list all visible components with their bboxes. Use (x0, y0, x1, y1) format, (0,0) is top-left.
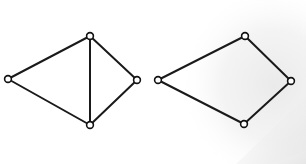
graph-figure (0, 0, 306, 164)
graph-node (87, 122, 94, 129)
figure-canvas (0, 0, 306, 164)
graph-node (241, 121, 248, 128)
graph-node (134, 77, 141, 84)
graph-node (5, 76, 12, 83)
graph-node (155, 77, 162, 84)
graph-node (288, 78, 295, 85)
graph-node (87, 33, 94, 40)
graph-node (242, 33, 249, 40)
